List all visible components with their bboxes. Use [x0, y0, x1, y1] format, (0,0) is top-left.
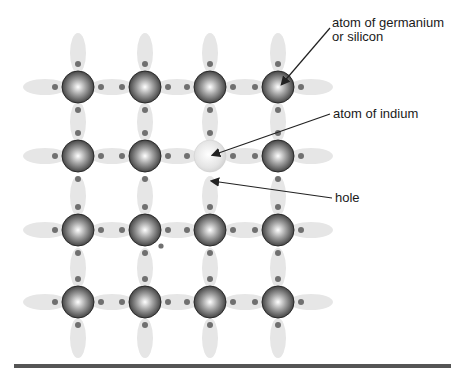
- electron: [230, 299, 236, 305]
- electron: [142, 176, 148, 182]
- germanium-atom: [194, 286, 226, 318]
- electron: [275, 250, 281, 256]
- electron: [119, 84, 125, 90]
- germanium-atom: [262, 140, 294, 172]
- germanium-atom: [62, 140, 94, 172]
- electron: [298, 153, 304, 159]
- electron: [275, 61, 281, 67]
- indium-label: atom of indium: [333, 107, 418, 121]
- hole-label: hole: [335, 191, 360, 205]
- electron: [207, 130, 213, 136]
- electron: [75, 176, 81, 182]
- electron: [184, 299, 190, 305]
- atoms: [62, 71, 294, 318]
- electron: [184, 84, 190, 90]
- bond-cloud: [223, 148, 267, 164]
- electron: [142, 61, 148, 67]
- electron: [252, 84, 258, 90]
- germanium-atom: [129, 71, 161, 103]
- electron: [98, 153, 104, 159]
- bond-cloud: [289, 294, 333, 310]
- electron: [252, 299, 258, 305]
- electrons: [52, 61, 304, 328]
- electron: [275, 276, 281, 282]
- electron: [165, 153, 171, 159]
- bond-cloud: [223, 222, 267, 238]
- bond-cloud: [23, 294, 67, 310]
- electron: [207, 322, 213, 328]
- stray-electron: [158, 243, 163, 248]
- bond-cloud: [289, 79, 333, 95]
- electron: [98, 227, 104, 233]
- bond-cloud: [90, 148, 134, 164]
- electron: [207, 61, 213, 67]
- electron: [207, 250, 213, 256]
- bond-cloud: [155, 148, 199, 164]
- electron: [165, 84, 171, 90]
- electron: [230, 153, 236, 159]
- electron: [75, 61, 81, 67]
- electron: [207, 204, 213, 210]
- electron: [119, 227, 125, 233]
- electron: [275, 107, 281, 113]
- germanium-atom: [262, 214, 294, 246]
- germanium-atom: [194, 71, 226, 103]
- electron: [52, 84, 58, 90]
- germanium-atom: [62, 214, 94, 246]
- electron: [52, 227, 58, 233]
- electron: [298, 84, 304, 90]
- germanium-atom: [129, 214, 161, 246]
- electron: [75, 204, 81, 210]
- electron: [75, 276, 81, 282]
- baseline-rule: [14, 364, 451, 368]
- germanium-label: atom of germanium or silicon: [332, 16, 444, 44]
- bond-cloud: [289, 222, 333, 238]
- bond-cloud: [289, 148, 333, 164]
- bond-cloud: [90, 222, 134, 238]
- germanium-atom: [129, 140, 161, 172]
- bond-cloud: [23, 148, 67, 164]
- electron: [75, 250, 81, 256]
- electron: [298, 299, 304, 305]
- bond-cloud: [155, 294, 199, 310]
- electron: [275, 322, 281, 328]
- bond-cloud: [90, 294, 134, 310]
- bond-cloud: [90, 79, 134, 95]
- electron: [184, 227, 190, 233]
- bond-cloud: [23, 222, 67, 238]
- germanium-atom: [262, 286, 294, 318]
- electron: [52, 299, 58, 305]
- electron: [252, 153, 258, 159]
- electron: [98, 84, 104, 90]
- electron: [142, 204, 148, 210]
- electron: [142, 130, 148, 136]
- electron: [230, 227, 236, 233]
- bond-cloud: [23, 79, 67, 95]
- indium-atom: [194, 140, 226, 172]
- electron: [184, 153, 190, 159]
- electron: [142, 322, 148, 328]
- electron: [75, 107, 81, 113]
- bond-cloud: [155, 79, 199, 95]
- electron: [275, 204, 281, 210]
- germanium-atom: [62, 286, 94, 318]
- electron: [207, 107, 213, 113]
- germanium-atom: [194, 214, 226, 246]
- electron: [165, 299, 171, 305]
- electron: [119, 153, 125, 159]
- electron: [142, 107, 148, 113]
- electron: [298, 227, 304, 233]
- germanium-atom: [62, 71, 94, 103]
- bond-cloud: [223, 294, 267, 310]
- electron: [230, 84, 236, 90]
- electron: [275, 176, 281, 182]
- electron: [75, 130, 81, 136]
- electron: [142, 250, 148, 256]
- electron: [52, 153, 58, 159]
- electron: [252, 227, 258, 233]
- crystal-lattice-diagram: [0, 0, 467, 368]
- electron: [75, 322, 81, 328]
- bond-cloud: [223, 79, 267, 95]
- germanium-atom: [129, 286, 161, 318]
- electron: [165, 227, 171, 233]
